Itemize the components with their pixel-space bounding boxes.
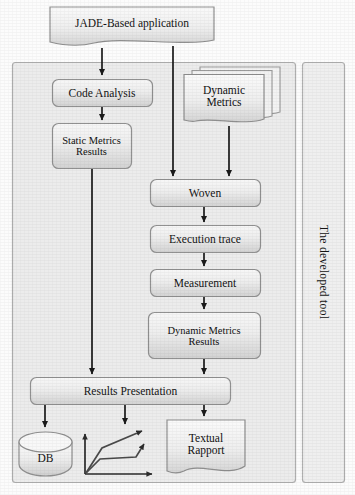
diagram-canvas: JADE-Based application Code Analysis Sta… bbox=[0, 0, 355, 495]
panel-developed-tool-label: The developed tool bbox=[303, 63, 344, 482]
static-results-line2: Results bbox=[76, 146, 107, 157]
node-dynamic-metrics-label: Dynamic Metrics bbox=[186, 75, 262, 117]
node-dynamic-metrics-results-label: Dynamic Metrics Results bbox=[148, 313, 260, 358]
node-static-metrics-results-label: Static Metrics Results bbox=[52, 124, 131, 168]
node-jade-application[interactable] bbox=[50, 7, 214, 45]
node-results-presentation[interactable] bbox=[31, 378, 231, 405]
node-woven[interactable] bbox=[151, 180, 261, 207]
node-execution-trace[interactable] bbox=[151, 226, 261, 253]
static-results-line1: Static Metrics bbox=[62, 135, 121, 146]
node-code-analysis[interactable] bbox=[53, 80, 153, 107]
dynamic-results-line1: Dynamic Metrics bbox=[167, 325, 240, 336]
textual-rapport-line1: Textual bbox=[189, 432, 223, 444]
node-measurement[interactable] bbox=[151, 270, 261, 297]
textual-rapport-line2: Rapport bbox=[187, 444, 224, 456]
dynamic-metrics-line2: Metrics bbox=[206, 96, 241, 108]
dynamic-metrics-line1: Dynamic bbox=[203, 84, 245, 96]
diagram-svg bbox=[0, 0, 355, 495]
node-db[interactable] bbox=[19, 432, 72, 476]
node-textual-rapport-label: Textual Rapport bbox=[167, 422, 245, 466]
dynamic-results-line2: Results bbox=[189, 336, 220, 347]
